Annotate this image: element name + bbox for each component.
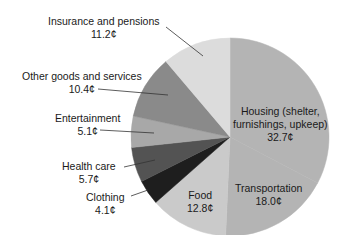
label-other: Other goods and services 10.4¢ (22, 70, 142, 96)
label-food-value: 12.8¢ (187, 202, 213, 215)
label-entertainment: Entertainment 5.1¢ (55, 112, 120, 138)
label-clothing: Clothing 4.1¢ (86, 191, 125, 217)
leader-line-clothing (131, 190, 148, 196)
label-entertainment-name: Entertainment (55, 112, 120, 125)
label-housing-value: 32.7¢ (233, 131, 328, 144)
label-health: Health care 5.7¢ (62, 160, 116, 186)
label-transportation-value: 18.0¢ (235, 195, 302, 208)
label-clothing-value: 4.1¢ (86, 204, 125, 217)
label-transportation-name: Transportation (235, 182, 302, 195)
label-insurance-value: 11.2¢ (48, 28, 160, 41)
label-entertainment-value: 5.1¢ (55, 125, 120, 138)
label-insurance-name: Insurance and pensions (48, 15, 160, 28)
label-other-name: Other goods and services (22, 70, 142, 83)
label-housing-line2: furnishings, upkeep) (233, 118, 328, 131)
label-other-value: 10.4¢ (22, 83, 142, 96)
label-food-name: Food (187, 189, 213, 202)
label-insurance: Insurance and pensions 11.2¢ (48, 15, 160, 41)
label-health-value: 5.7¢ (62, 173, 116, 186)
label-housing-line1: Housing (shelter, (233, 105, 328, 118)
label-food: Food 12.8¢ (187, 189, 213, 215)
label-clothing-name: Clothing (86, 191, 125, 204)
label-transportation: Transportation 18.0¢ (235, 182, 302, 208)
label-housing: Housing (shelter, furnishings, upkeep) 3… (233, 105, 328, 144)
label-health-name: Health care (62, 160, 116, 173)
